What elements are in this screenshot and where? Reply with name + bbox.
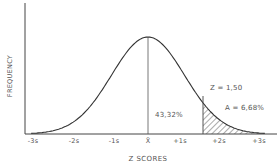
tick-plus-2s: +2s [212,137,226,145]
z-score-annotation: Z = 1,50 [210,84,242,92]
tick-minus-1s: -1s [109,137,119,145]
tick-plus-3s: +3s [252,137,266,145]
tick-mean: X̄ [146,137,151,145]
x-axis-label: Z SCORES [129,155,168,163]
tick-plus-1s: +1s [173,137,187,145]
tick-minus-3s: -3s [28,137,38,145]
middle-area-annotation: 43,32% [155,111,183,119]
tail-area-annotation: A = 6,68% [225,104,264,112]
y-axis-label: FREQUENCY [6,52,14,100]
tick-minus-2s: -2s [69,137,79,145]
